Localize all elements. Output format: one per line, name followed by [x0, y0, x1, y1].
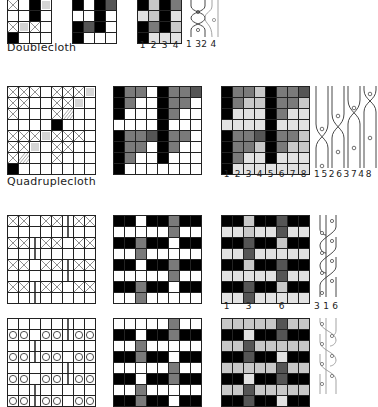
drawdown-cell	[158, 164, 168, 174]
doublecloth-drawdown-grid	[72, 0, 117, 44]
shaded-cell	[255, 319, 265, 329]
shaded-cell	[255, 341, 265, 351]
draft-cell	[41, 374, 51, 384]
shaded-cell	[244, 319, 254, 329]
drawdown-cell	[147, 385, 157, 395]
shaded-cell	[244, 120, 254, 130]
shaded-cell	[288, 109, 298, 119]
shaded-cell	[299, 352, 309, 362]
drawdown-cell	[73, 11, 83, 21]
drawdown-cell	[125, 238, 135, 248]
column-number: 7	[287, 169, 298, 179]
section4-drawdown-grid	[113, 318, 202, 407]
draft-cell	[41, 216, 51, 226]
draft-cell	[52, 385, 62, 395]
drawdown-cell	[136, 238, 146, 248]
drawdown-cell	[158, 109, 168, 119]
shaded-cell	[244, 352, 254, 362]
drawdown-cell	[180, 131, 190, 141]
shaded-cell	[266, 249, 276, 259]
draft-cell	[63, 98, 73, 108]
draft-cell	[8, 120, 18, 130]
drawdown-cell	[114, 396, 124, 406]
shaded-cell	[288, 271, 298, 281]
column-number	[232, 301, 243, 311]
shaded-cell	[255, 330, 265, 340]
drawdown-cell	[147, 120, 157, 130]
drawdown-cell	[169, 319, 179, 329]
shaded-cell	[266, 87, 276, 97]
drawdown-cell	[114, 98, 124, 108]
draft-cell	[8, 142, 18, 152]
shaded-cell	[244, 131, 254, 141]
draft-cell	[19, 260, 29, 270]
shaded-cell	[233, 363, 243, 373]
section3-shaded-numbers: 136	[221, 301, 309, 311]
draft-cell	[85, 87, 95, 97]
draft-cell	[85, 153, 95, 163]
draft-cell	[85, 319, 95, 329]
drawdown-cell	[136, 374, 146, 384]
draft-cell	[8, 363, 18, 373]
shaded-cell	[233, 260, 243, 270]
section3-strand-diagram	[316, 215, 340, 297]
drawdown-cell	[114, 238, 124, 248]
draft-cell	[85, 341, 95, 351]
draft-cell	[52, 396, 62, 406]
draft-cell	[41, 330, 51, 340]
shaded-cell	[266, 374, 276, 384]
draft-cell	[8, 109, 18, 119]
draft-cell	[19, 216, 29, 226]
shaded-cell	[244, 341, 254, 351]
drawdown-cell	[136, 396, 146, 406]
draft-cell	[8, 131, 18, 141]
drawdown-cell	[180, 249, 190, 259]
shaded-cell	[255, 120, 265, 130]
drawdown-cell	[180, 271, 190, 281]
drawdown-cell	[158, 216, 168, 226]
column-number: 6	[276, 301, 287, 311]
shaded-cell	[288, 249, 298, 259]
quadruplecloth-shaded-grid	[221, 86, 310, 175]
shaded-cell	[277, 396, 287, 406]
drawdown-cell	[147, 330, 157, 340]
quadruplecloth-strand-diagram	[312, 86, 378, 170]
drawdown-cell	[180, 216, 190, 226]
doublecloth-strand-diagram	[185, 0, 221, 38]
shaded-cell	[277, 216, 287, 226]
drawdown-cell	[136, 120, 146, 130]
draft-cell	[52, 98, 62, 108]
draft-cell	[41, 249, 51, 259]
drawdown-cell	[136, 153, 146, 163]
draft-cell	[41, 227, 51, 237]
draft-cell	[19, 109, 29, 119]
drawdown-cell	[114, 385, 124, 395]
drawdown-cell	[125, 216, 135, 226]
shaded-cell	[277, 227, 287, 237]
shaded-cell	[222, 238, 232, 248]
draft-cell	[41, 319, 51, 329]
draft-cell	[8, 374, 18, 384]
drawdown-cell	[114, 249, 124, 259]
drawdown-cell	[147, 249, 157, 259]
shaded-cell	[266, 282, 276, 292]
drawdown-cell	[180, 330, 190, 340]
draft-cell	[63, 330, 73, 340]
drawdown-cell	[84, 22, 94, 32]
shaded-cell	[266, 216, 276, 226]
draft-cell	[74, 374, 84, 384]
draft-cell	[41, 109, 51, 119]
column-number	[298, 301, 309, 311]
draft-cell	[30, 216, 40, 226]
shaded-cell	[244, 282, 254, 292]
shaded-cell	[233, 396, 243, 406]
draft-cell	[19, 385, 29, 395]
doublecloth-strand-numbers: 1 32 4	[186, 39, 216, 49]
draft-cell	[85, 330, 95, 340]
column-number: 6	[276, 169, 287, 179]
draft-cell	[19, 374, 29, 384]
shaded-cell	[222, 98, 232, 108]
draft-cell	[74, 363, 84, 373]
draft-cell	[74, 98, 84, 108]
draft-cell	[85, 249, 95, 259]
